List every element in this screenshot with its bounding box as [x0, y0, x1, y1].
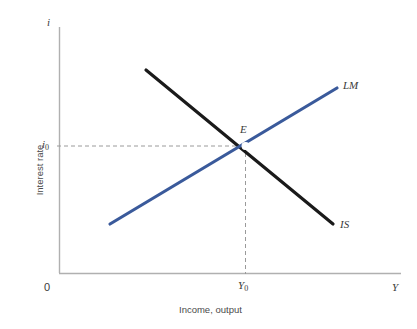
x-tick-subscript: 0 — [244, 284, 248, 293]
equilibrium-point-marker — [242, 143, 249, 150]
x-tick-label-y0: Y0 — [238, 280, 248, 293]
x-axis-variable-label: Y — [392, 282, 398, 293]
y-axis-variable-label: i — [47, 17, 50, 28]
y-tick-label-i0: i0 — [42, 139, 49, 152]
lm-curve-label: LM — [343, 80, 358, 91]
x-axis-title: Income, output — [179, 305, 242, 315]
equilibrium-point-label: E — [240, 124, 247, 135]
lm-curve-line — [110, 88, 337, 224]
is-curve-label: IS — [340, 219, 349, 230]
plot-area — [0, 0, 417, 329]
is-lm-chart-figure: i Y 0 Interest rate Income, output i0 Y0… — [0, 0, 417, 329]
origin-label: 0 — [44, 282, 50, 293]
y-axis-title: Interest rate — [35, 120, 45, 220]
y-tick-subscript: 0 — [45, 143, 49, 152]
